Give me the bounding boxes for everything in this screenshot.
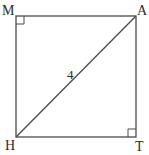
square-diagram: M A H T 4 bbox=[0, 0, 149, 155]
diagonal-length-label: 4 bbox=[67, 67, 74, 82]
right-angle-marker-T bbox=[128, 129, 136, 137]
vertex-label-M: M bbox=[2, 3, 15, 18]
right-angle-marker-M bbox=[16, 16, 24, 24]
vertex-label-H: H bbox=[5, 138, 15, 153]
vertex-label-T: T bbox=[135, 139, 144, 154]
vertex-label-A: A bbox=[137, 3, 148, 18]
diagram-svg: M A H T 4 bbox=[0, 0, 149, 155]
diagonal-HA bbox=[16, 16, 136, 137]
